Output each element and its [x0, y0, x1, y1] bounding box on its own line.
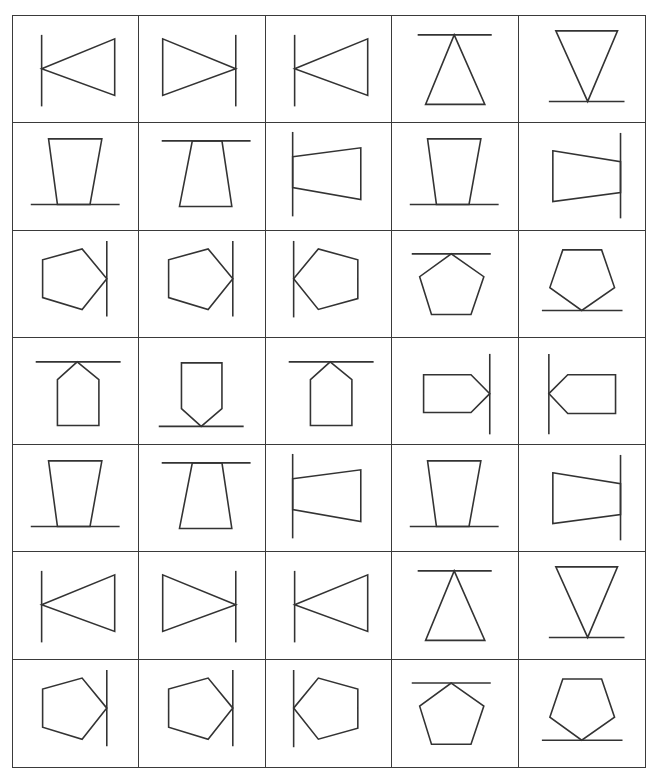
grid-cell-pent-right-line: [139, 660, 265, 767]
pent-right-line-figure: [13, 660, 138, 767]
pent-bottom-line-figure: [519, 231, 645, 337]
pent-top-line-figure: [392, 660, 517, 767]
grid-cell-pent-top-line: [392, 231, 518, 338]
shape-outline: [549, 249, 614, 310]
grid-cell-pent-right-line: [13, 660, 139, 767]
trap-bottom-line-figure: [392, 123, 517, 229]
tri-left-line-figure: [266, 552, 391, 658]
shape-outline: [180, 141, 232, 207]
grid-cell-pent-right-line: [139, 231, 265, 338]
arrow-right-line-figure: [392, 338, 517, 444]
grid-cell-trap-top-line: [139, 445, 265, 552]
shape-outline: [428, 139, 481, 205]
shape-outline: [294, 575, 367, 632]
grid-cell-pent-bottom-line: [519, 660, 645, 767]
grid-cell-trap-top-line: [139, 123, 265, 230]
shape-outline: [424, 375, 490, 413]
shape-outline: [57, 362, 98, 426]
trap-top-line-figure: [139, 123, 264, 229]
grid-cell-trap-bottom-line: [13, 123, 139, 230]
shape-outline: [42, 575, 115, 632]
tri-left-line-figure: [13, 16, 138, 122]
shape-outline: [549, 679, 614, 740]
trap-left-line-figure: [266, 123, 391, 229]
shape-outline: [293, 678, 357, 739]
pent-right-line-figure: [139, 231, 264, 337]
shape-outline: [428, 461, 481, 527]
grid-cell-tri-top-line: [392, 16, 518, 123]
shape-outline: [294, 39, 367, 96]
grid-cell-trap-left-line: [266, 445, 392, 552]
grid-cell-house-bottom-line: [139, 338, 265, 445]
grid-cell-tri-top-line: [392, 552, 518, 659]
grid-cell-tri-left-line: [13, 552, 139, 659]
trap-bottom-line-figure: [392, 445, 517, 551]
grid-cell-tri-left-line: [266, 552, 392, 659]
tri-bottom-line-figure: [519, 16, 645, 122]
grid-cell-tri-bottom-line: [519, 552, 645, 659]
shape-outline: [180, 463, 232, 529]
shape-outline: [292, 148, 360, 200]
grid-cell-tri-left-line: [13, 16, 139, 123]
tri-right-line-figure: [139, 16, 264, 122]
house-bottom-line-figure: [139, 338, 264, 444]
grid-cell-trap-bottom-line: [392, 445, 518, 552]
shape-outline: [420, 253, 484, 314]
shape-outline: [552, 151, 620, 202]
shape-outline: [552, 473, 620, 524]
shape-outline: [420, 683, 484, 744]
shape-outline: [163, 39, 236, 96]
trap-right-line-figure: [519, 123, 645, 229]
shape-outline: [182, 363, 222, 427]
shape-outline: [426, 571, 485, 641]
grid-cell-trap-right-line: [519, 445, 645, 552]
tri-left-line-figure: [266, 16, 391, 122]
shape-outline: [49, 461, 102, 527]
pent-right-line-figure: [13, 231, 138, 337]
shape-outline: [42, 39, 115, 96]
pent-top-line-figure: [392, 231, 517, 337]
tri-left-line-figure: [13, 552, 138, 658]
grid-cell-trap-bottom-line: [392, 123, 518, 230]
shape-outline: [169, 678, 233, 739]
grid-cell-pent-right-line: [13, 231, 139, 338]
tri-top-line-figure: [392, 552, 517, 658]
shape-outline: [292, 470, 360, 522]
shape-outline: [555, 31, 617, 102]
grid-cell-pent-left-line: [266, 231, 392, 338]
shape-outline: [293, 248, 357, 309]
trap-right-line-figure: [519, 445, 645, 551]
grid-cell-tri-bottom-line: [519, 16, 645, 123]
tri-top-line-figure: [392, 16, 517, 122]
grid-cell-tri-left-line: [266, 16, 392, 123]
grid-cell-trap-right-line: [519, 123, 645, 230]
arrow-left-line-figure: [519, 338, 645, 444]
trap-left-line-figure: [266, 445, 391, 551]
shape-outline: [555, 567, 617, 638]
shape-outline: [548, 375, 615, 414]
trap-bottom-line-figure: [13, 445, 138, 551]
house-top-line-figure: [266, 338, 391, 444]
pent-bottom-line-figure: [519, 660, 645, 767]
grid-cell-pent-left-line: [266, 660, 392, 767]
house-top-line-figure: [13, 338, 138, 444]
shape-outline: [426, 35, 485, 105]
shape-grid: [12, 15, 646, 768]
tri-right-line-figure: [139, 552, 264, 658]
grid-cell-tri-right-line: [139, 16, 265, 123]
grid-cell-house-top-line: [266, 338, 392, 445]
grid-cell-tri-right-line: [139, 552, 265, 659]
pent-left-line-figure: [266, 231, 391, 337]
grid-cell-pent-top-line: [392, 660, 518, 767]
shape-outline: [163, 575, 236, 632]
tri-bottom-line-figure: [519, 552, 645, 658]
shape-outline: [43, 678, 107, 739]
grid-cell-trap-left-line: [266, 123, 392, 230]
pent-left-line-figure: [266, 660, 391, 767]
trap-top-line-figure: [139, 445, 264, 551]
grid-cell-arrow-right-line: [392, 338, 518, 445]
grid-cell-pent-bottom-line: [519, 231, 645, 338]
trap-bottom-line-figure: [13, 123, 138, 229]
grid-cell-trap-bottom-line: [13, 445, 139, 552]
pent-right-line-figure: [139, 660, 264, 767]
